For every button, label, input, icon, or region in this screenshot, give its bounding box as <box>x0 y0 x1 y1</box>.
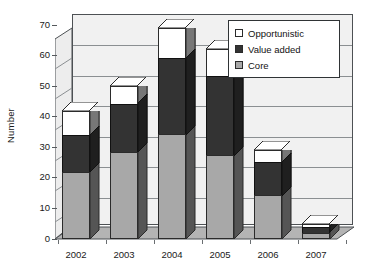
bar-2004-seg-opportunistic <box>158 28 186 59</box>
y-tick-mark-0 <box>52 239 57 240</box>
bar-2002-seg-core <box>62 172 90 239</box>
y-tick-mark-10 <box>52 208 57 209</box>
x-tick-label-2002: 2002 <box>56 249 96 260</box>
bar-2005-seg-value-added <box>206 76 234 156</box>
y-tick-label-20: 20 <box>28 171 50 182</box>
x-tick-label-2006: 2006 <box>248 249 288 260</box>
y-tick-label-60: 60 <box>28 49 50 60</box>
bar-2003-seg-opportunistic <box>110 86 138 105</box>
x-tick-label-2003: 2003 <box>104 249 144 260</box>
x-tick-mark-3 <box>202 240 203 244</box>
bar-2007-top-cap <box>302 215 330 224</box>
bar-2002-seg-opportunistic <box>62 111 90 136</box>
bar-2002-seg-value-added <box>62 135 90 173</box>
y-tick-label-50: 50 <box>28 80 50 91</box>
y-axis-title: Number <box>5 96 16 156</box>
bar-2005-seg-core <box>206 155 234 239</box>
bar-2003-side <box>138 86 147 239</box>
bar-2007-side <box>330 224 339 239</box>
legend-swatch-core <box>235 61 243 69</box>
y-tick-label-70: 70 <box>28 19 50 30</box>
y-tick-label-30: 30 <box>28 141 50 152</box>
bar-2006-top-cap <box>254 141 282 150</box>
legend-swatch-opportunistic <box>235 29 243 37</box>
bar-2006-seg-value-added <box>254 162 282 196</box>
bar-2006-seg-core <box>254 195 282 239</box>
x-tick-mark-6 <box>346 240 347 244</box>
legend-item-value-added: Value added <box>235 41 334 57</box>
bar-2004-top-cap <box>158 19 186 28</box>
x-tick-mark-0 <box>58 240 59 244</box>
bar-2003 <box>110 86 138 239</box>
y-tick-mark-30 <box>52 147 57 148</box>
bar-2007 <box>302 224 330 239</box>
y-tick-label-0: 0 <box>28 233 50 244</box>
legend-label-value-added: Value added <box>248 44 301 55</box>
chart-legend: Opportunistic Value added Core <box>228 20 340 78</box>
bar-2004-seg-core <box>158 134 186 239</box>
bar-2007-seg-core <box>302 233 330 239</box>
legend-label-opportunistic: Opportunistic <box>248 28 304 39</box>
x-tick-mark-2 <box>154 240 155 244</box>
y-tick-label-10: 10 <box>28 202 50 213</box>
bar-2006-side <box>282 150 291 239</box>
y-tick-mark-50 <box>52 86 57 87</box>
y-tick-mark-40 <box>52 116 57 117</box>
y-tick-label-40: 40 <box>28 110 50 121</box>
legend-item-core: Core <box>235 57 334 73</box>
x-tick-label-2007: 2007 <box>296 249 336 260</box>
y-tick-mark-70 <box>52 25 57 26</box>
bar-2004-side <box>186 28 195 239</box>
x-tick-mark-4 <box>250 240 251 244</box>
y-tick-mark-60 <box>52 55 57 56</box>
bar-2003-seg-value-added <box>110 104 138 153</box>
bar-2002-side <box>90 111 99 239</box>
x-tick-mark-1 <box>106 240 107 244</box>
bar-2002 <box>62 111 90 239</box>
stacked-bar-chart: Number 70 60 50 40 30 20 <box>0 0 376 271</box>
x-tick-label-2004: 2004 <box>152 249 192 260</box>
legend-item-opportunistic: Opportunistic <box>235 25 334 41</box>
bar-2003-seg-core <box>110 152 138 239</box>
x-tick-label-2005: 2005 <box>200 249 240 260</box>
bar-2004 <box>158 28 186 239</box>
legend-swatch-value-added <box>235 45 243 53</box>
bar-2002-top-cap <box>62 102 90 111</box>
bar-2004-seg-value-added <box>158 58 186 135</box>
y-tick-mark-20 <box>52 177 57 178</box>
x-tick-mark-5 <box>298 240 299 244</box>
bar-2003-top-cap <box>110 77 138 86</box>
bar-2006 <box>254 150 282 239</box>
legend-label-core: Core <box>248 60 269 71</box>
